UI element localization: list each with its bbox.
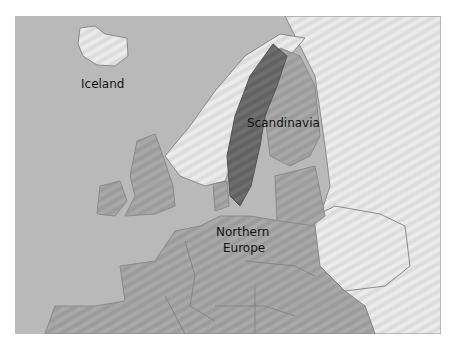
britain-landmass: [125, 134, 175, 216]
iceland-landmass: [78, 26, 128, 66]
europe-map: Iceland Scandinavia Northern Europe: [15, 16, 441, 334]
denmark-landmass: [213, 181, 229, 211]
label-northern-europe-line1: Northern: [216, 225, 269, 239]
map-shapes: [15, 16, 441, 334]
label-scandinavia: Scandinavia: [247, 116, 320, 130]
label-northern-europe-line2: Europe: [223, 241, 265, 255]
label-iceland: Iceland: [81, 77, 124, 91]
ireland-landmass: [97, 181, 127, 216]
